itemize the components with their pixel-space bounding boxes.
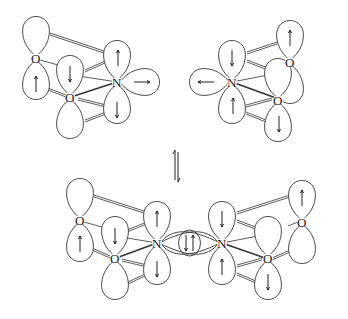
n-n-sigma-bond (159, 230, 220, 256)
atom-n: N (217, 236, 227, 251)
atom-n: N (152, 236, 162, 251)
n2o4-diagram: O O N N (0, 0, 348, 319)
spin-up-icon (192, 235, 195, 251)
atom-o: O (31, 51, 40, 66)
atom-o: O (75, 213, 84, 228)
molecule-bottom-dimer: O O N N O O (67, 179, 316, 300)
equilibrium-arrow-icon (173, 150, 180, 182)
atom-o: O (273, 93, 282, 108)
atom-n: N (112, 75, 122, 90)
spin-down-icon (185, 235, 188, 251)
atom-o: O (65, 90, 74, 105)
atom-o: O (110, 251, 119, 266)
atom-o: O (297, 215, 306, 230)
atom-o: O (285, 55, 294, 70)
molecule-top-left: O O N (23, 17, 160, 139)
molecule-top-right: N O O (190, 21, 304, 142)
atom-n: N (227, 75, 237, 90)
atom-o: O (263, 251, 272, 266)
